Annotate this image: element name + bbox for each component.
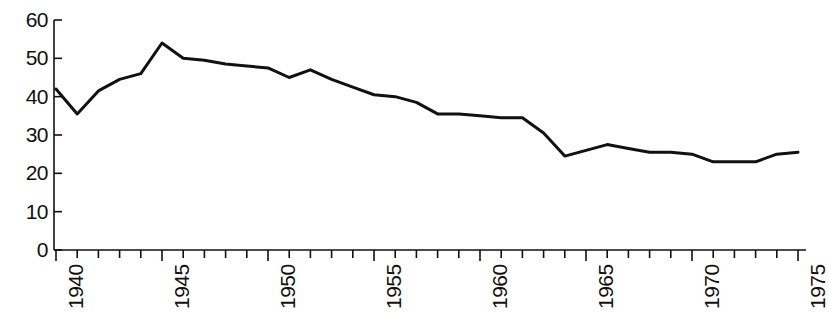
x-axis-tick-label: 1965 <box>595 264 616 309</box>
x-axis-tick-label: 1975 <box>807 264 828 309</box>
x-axis-tick-label: 1960 <box>489 264 510 309</box>
x-axis-tick-label: 1950 <box>277 264 298 309</box>
x-axis-tick-label: 1945 <box>171 264 192 309</box>
x-axis-tick-label: 1970 <box>701 264 722 309</box>
x-axis-tick-label: 1940 <box>65 264 86 309</box>
x-axis-tick-label: 1955 <box>383 264 404 309</box>
